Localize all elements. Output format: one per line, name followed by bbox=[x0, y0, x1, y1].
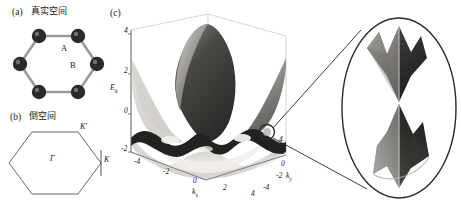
lattice-bonds bbox=[20, 36, 97, 92]
x-axis-label-sub: x bbox=[196, 192, 198, 198]
dirac-cone-inset bbox=[261, 6, 461, 206]
z-tick-0: 0 bbox=[124, 107, 128, 115]
panel-b-tag: (b) bbox=[10, 113, 21, 123]
z-axis-label: Ek bbox=[110, 84, 117, 94]
x-axis-label: kx bbox=[192, 188, 198, 198]
x-tick-4: 4 bbox=[251, 190, 255, 198]
sublattice-a-label: A bbox=[61, 44, 67, 53]
x-tick-2: 2 bbox=[223, 184, 227, 192]
k-label: K bbox=[104, 156, 109, 164]
dirac-throat-left bbox=[161, 136, 179, 144]
kprime-label: K' bbox=[80, 123, 87, 131]
panel-a-caption: 真实空间 bbox=[31, 7, 67, 16]
dirac-throat-center bbox=[199, 146, 213, 152]
dirac-throat-right bbox=[233, 134, 251, 142]
figure-root: (a) 真实空间 bbox=[0, 0, 461, 206]
bz-hexagon bbox=[9, 132, 101, 194]
z-tick-2: 2 bbox=[124, 67, 128, 75]
z-axis-label-sub: k bbox=[115, 88, 117, 94]
x-tick-neg4: -4 bbox=[134, 158, 140, 166]
conduction-left-wing bbox=[131, 58, 184, 143]
z-tick-marks bbox=[128, 34, 131, 152]
panel-a-tag: (a) bbox=[12, 8, 23, 18]
z-tick-4: 4 bbox=[124, 27, 128, 35]
sublattice-b-label: B bbox=[70, 61, 76, 70]
panel-b-caption: 倒空间 bbox=[29, 112, 56, 121]
gamma-label: Γ bbox=[50, 155, 55, 163]
brillouin-zone bbox=[8, 128, 118, 200]
z-tick-neg2: -2 bbox=[121, 145, 127, 153]
lattice-atoms bbox=[13, 29, 104, 99]
x-tick-0: 0 bbox=[193, 177, 197, 185]
honeycomb-lattice bbox=[16, 28, 116, 100]
x-tick-neg2: -2 bbox=[163, 168, 169, 176]
